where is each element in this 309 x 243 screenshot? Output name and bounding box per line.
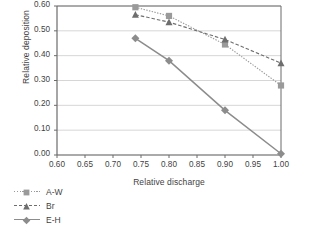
chart-legend: A-WBrE-H (14, 186, 63, 228)
data-point-marker-square (132, 4, 138, 10)
legend-item-e-h[interactable]: E-H (14, 214, 63, 226)
y-tick-label: 0.20 (0, 99, 50, 108)
y-tick-label: 0.50 (0, 25, 50, 34)
data-point-marker-diamond (131, 34, 139, 42)
data-point-marker-triangle (166, 18, 173, 25)
legend-label: Br (46, 201, 55, 211)
data-point-marker-triangle (23, 203, 30, 209)
data-point-marker-square (24, 189, 30, 195)
x-tick-label: 1.00 (263, 160, 299, 169)
y-tick-label: 0.40 (0, 50, 50, 59)
y-tick-label: 0.10 (0, 124, 50, 133)
legend-swatch-square-icon (14, 186, 40, 198)
legend-label: A-W (46, 187, 63, 197)
legend-marker-square-icon (22, 188, 31, 197)
legend-swatch-triangle-icon (14, 200, 40, 212)
legend-item-a-w[interactable]: A-W (14, 186, 63, 198)
data-point-marker-triangle (132, 11, 139, 18)
legend-marker-diamond-icon (22, 216, 31, 225)
legend-marker-triangle-icon (22, 202, 31, 211)
legend-swatch-diamond-icon (14, 214, 40, 226)
data-point-marker-square (278, 82, 284, 88)
data-point-marker-square (166, 13, 172, 19)
data-point-marker-triangle (278, 59, 285, 66)
data-point-marker-diamond (23, 216, 31, 224)
legend-label: E-H (46, 215, 61, 225)
chart-figure: Relative deposition Relative discharge 0… (0, 0, 309, 243)
y-tick-label: 0.30 (0, 75, 50, 84)
legend-item-br[interactable]: Br (14, 200, 63, 212)
y-tick-label: 0.60 (0, 0, 50, 9)
x-axis-label: Relative discharge (57, 177, 281, 187)
y-tick-label: 0.00 (0, 149, 50, 158)
